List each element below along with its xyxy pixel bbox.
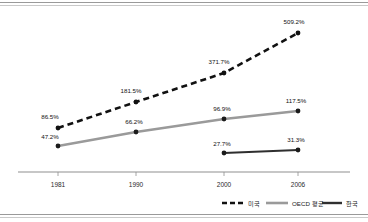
series-point-oecd-1990 xyxy=(134,130,139,135)
series-point-oecd-2006 xyxy=(296,109,301,114)
legend-label-oecd: OECD 평균 xyxy=(292,200,324,207)
value-label-oecd-1990: 66.2% xyxy=(125,118,143,125)
chart-svg: 1981 1990 2000 2006 86.5% 181.5% 371.7% xyxy=(0,6,368,214)
legend-label-us: 미국 xyxy=(248,200,260,208)
frame-rule-top xyxy=(0,2,368,3)
series-point-us-2000 xyxy=(222,71,227,76)
series-point-oecd-1981 xyxy=(56,144,61,149)
value-label-korea-2006: 31.3% xyxy=(287,136,305,143)
x-tick-label-2006: 2006 xyxy=(291,181,306,188)
value-label-us-2006: 509.2% xyxy=(284,18,305,25)
value-label-korea-2000: 27.7% xyxy=(213,140,231,147)
series-point-korea-2000 xyxy=(222,151,227,156)
value-label-us-2000: 371.7% xyxy=(209,58,230,65)
value-label-oecd-2006: 117.5% xyxy=(286,97,307,104)
chart-figure: 1981 1990 2000 2006 86.5% 181.5% 371.7% xyxy=(0,0,368,222)
series-point-us-1981 xyxy=(56,126,61,131)
series-line-korea xyxy=(224,150,298,153)
legend: 미국 OECD 평균 한국 xyxy=(222,200,358,208)
value-label-us-1981: 86.5% xyxy=(41,113,59,120)
series-point-korea-2006 xyxy=(296,148,301,153)
series-line-oecd xyxy=(58,111,298,146)
x-tick-label-1990: 1990 xyxy=(129,181,144,188)
value-label-oecd-2000: 96.9% xyxy=(213,105,231,112)
frame-rule-bottom xyxy=(0,214,368,215)
plot-area: 1981 1990 2000 2006 86.5% 181.5% 371.7% xyxy=(0,6,368,214)
value-label-oecd-1981: 47.2% xyxy=(41,133,59,140)
series-point-us-1990 xyxy=(134,100,139,105)
x-tick-label-1981: 1981 xyxy=(51,181,66,188)
series-point-us-2006 xyxy=(296,31,301,36)
frame-rule-bottom-secondary xyxy=(0,217,368,218)
value-label-us-1990: 181.5% xyxy=(121,87,142,94)
series-point-oecd-2000 xyxy=(222,117,227,122)
x-tick-label-2000: 2000 xyxy=(217,181,232,188)
legend-label-korea: 한국 xyxy=(346,200,358,208)
